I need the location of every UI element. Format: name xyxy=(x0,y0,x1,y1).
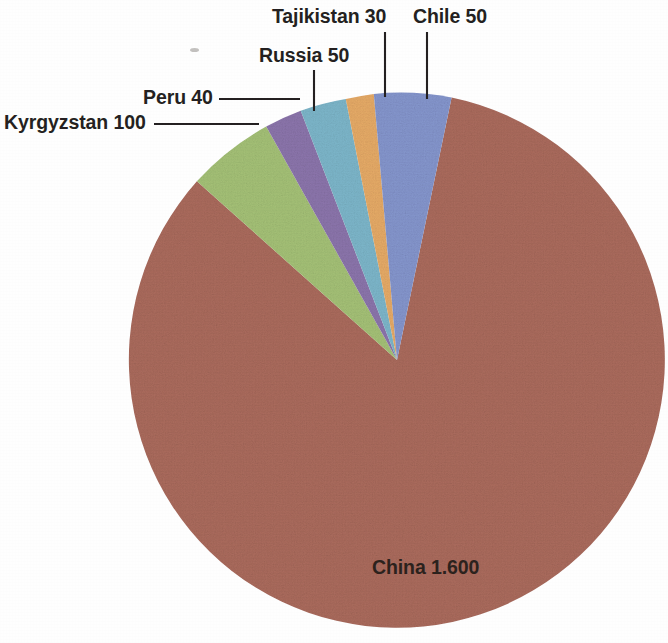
pie-chart-graphic xyxy=(0,0,668,643)
pie-label-peru: Peru 40 xyxy=(143,86,213,109)
pie-label-tajikistan: Tajikistan 30 xyxy=(272,5,386,28)
pie-label-china: China 1.600 xyxy=(372,556,479,579)
pie-chart-page: Kyrgyzstan 100 Peru 40 Russia 50 Tajikis… xyxy=(0,0,668,643)
pie-label-chile: Chile 50 xyxy=(413,5,487,28)
scan-artifact-speck xyxy=(190,48,199,52)
pie-label-kyrgyzstan: Kyrgyzstan 100 xyxy=(4,111,146,134)
pie-label-russia: Russia 50 xyxy=(259,44,349,67)
pie-slices-group xyxy=(129,93,665,628)
